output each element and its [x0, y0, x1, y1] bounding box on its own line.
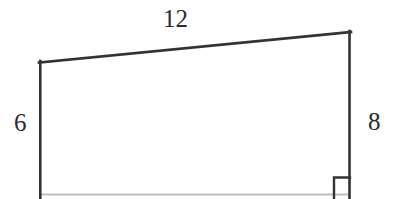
- right-side-length-label: 8: [368, 109, 381, 134]
- geometry-figure: 12 6 8: [0, 0, 404, 199]
- quadrilateral-diagram: [0, 0, 404, 199]
- left-side-length-label: 6: [14, 110, 27, 135]
- top-side-length-label: 12: [163, 6, 188, 31]
